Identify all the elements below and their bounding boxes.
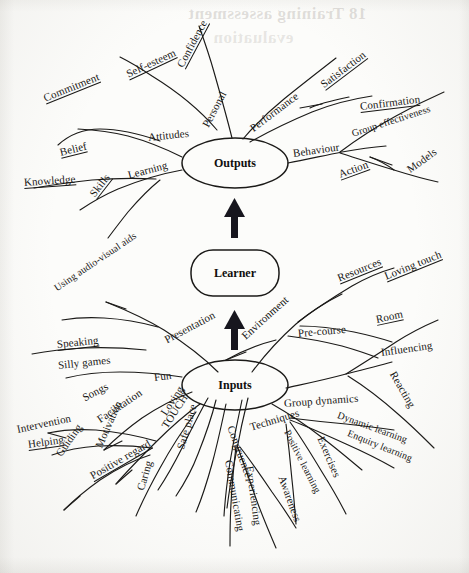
inputs-hub-label: Inputs bbox=[218, 378, 251, 393]
branch-stroke bbox=[286, 362, 392, 388]
branch-stroke bbox=[196, 404, 226, 512]
branch-stroke bbox=[116, 470, 132, 484]
branch-stroke bbox=[32, 348, 146, 354]
branch-stroke bbox=[108, 180, 160, 238]
outputs-hub-label: Outputs bbox=[214, 156, 256, 171]
learner-hub-label: Learner bbox=[214, 266, 256, 281]
branch-stroke bbox=[288, 336, 378, 358]
branch-stroke bbox=[106, 302, 126, 309]
branch-stroke bbox=[64, 496, 80, 510]
flow-arrow-upper bbox=[224, 198, 245, 238]
scanned-page: 18 Training assessment evaluation Output… bbox=[0, 0, 469, 573]
branch-label-fun: Fun bbox=[153, 369, 172, 383]
branch-stroke bbox=[226, 352, 246, 360]
